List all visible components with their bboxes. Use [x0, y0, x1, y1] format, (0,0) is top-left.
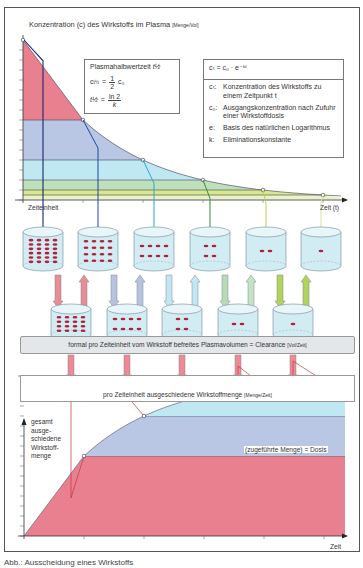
title-text: Konzentration (c) des Wirkstoffs im Plas…: [29, 20, 170, 29]
concentration-band: [23, 120, 143, 160]
drug-molecule: [65, 325, 70, 328]
plasma-cylinder: [190, 232, 230, 271]
filter-cylinder-top: [273, 304, 313, 314]
drug-molecule: [240, 323, 245, 326]
def-text: Eliminationskonstante: [223, 136, 291, 145]
drug-molecule: [45, 252, 50, 255]
drug-molecule: [53, 243, 58, 246]
excreted-unit: [Menge/Zeit]: [244, 392, 272, 398]
drug-molecule: [45, 248, 50, 251]
down-arrow-icon: [109, 275, 119, 308]
drug-molecule: [57, 325, 62, 328]
top-x-axis-label: Zeit (t): [320, 204, 339, 211]
concentration-band: [23, 190, 323, 195]
plasma-cylinder-top: [78, 227, 118, 237]
plasma-cylinder-top: [190, 227, 230, 237]
up-arrow-icon: [135, 275, 145, 308]
down-arrow-icon: [220, 275, 230, 308]
drug-molecule: [84, 253, 89, 256]
half-life-title: Plasmahalbwertzeit t½: [90, 63, 174, 72]
y-label-line: schiedene: [31, 435, 61, 444]
drug-molecule: [184, 318, 189, 321]
up-arrow-icon: [301, 275, 311, 308]
def-text: Ausgangskonzentration nach Zufuhr einer …: [223, 104, 338, 122]
frac-num: 1: [109, 75, 115, 83]
drug-molecule: [176, 328, 181, 331]
drug-molecule: [148, 255, 153, 258]
drug-molecule: [57, 329, 62, 332]
drug-molecule: [81, 329, 86, 332]
plasma-cylinder-top: [23, 227, 63, 237]
def-key: k:: [209, 136, 223, 145]
drug-molecule: [232, 323, 237, 326]
down-arrow-icon: [53, 275, 63, 308]
y-label-line: Wirkstoff-: [31, 444, 61, 453]
drug-molecule: [204, 245, 209, 248]
drug-molecule: [84, 259, 89, 262]
eq1-sub: t½: [94, 79, 100, 85]
drug-molecule: [37, 256, 42, 259]
drug-molecule: [65, 316, 70, 319]
drug-molecule: [37, 248, 42, 251]
drug-molecule: [73, 320, 78, 323]
drug-molecule: [37, 261, 42, 264]
drug-molecule: [319, 250, 324, 253]
drug-molecule: [73, 316, 78, 319]
filter-cylinder-top: [107, 304, 147, 314]
half-life-box: Plasmahalbwertzeit t½ ct½ = 1 2 c₀ t½ = …: [84, 59, 180, 114]
equals-sign: =: [101, 96, 105, 105]
clearance-band: formal pro Zeiteinheit vom Wirkstoff bef…: [20, 336, 355, 354]
ln2-over-k-fraction: ln 2 k: [108, 93, 121, 108]
def-key: c₀:: [209, 104, 223, 122]
filter-cylinder-top: [162, 304, 202, 314]
drug-molecule: [29, 261, 34, 264]
drug-molecule: [29, 252, 34, 255]
up-arrow-icon: [79, 275, 89, 308]
drug-molecule: [65, 320, 70, 323]
drug-molecule: [184, 328, 189, 331]
drug-molecule: [129, 318, 134, 321]
excreted-text: pro Zeiteinheit ausgeschiedene Wirkstoff…: [103, 391, 242, 398]
decay-formula: cₜ = c₀ · e⁻ᵏᵗ: [204, 60, 343, 80]
plasma-cylinder-top: [246, 227, 286, 237]
drug-molecule: [57, 320, 62, 323]
bottom-x-axis-label: Zeit: [330, 543, 341, 550]
half-life-equation-2: t½ = ln 2 k: [90, 93, 174, 108]
drug-molecule: [53, 248, 58, 251]
drug-molecule: [108, 240, 113, 243]
drug-molecule: [108, 246, 113, 249]
drug-molecule: [53, 239, 58, 242]
plasma-cylinder: [23, 232, 63, 271]
drug-molecule: [113, 318, 118, 321]
drug-molecule: [100, 253, 105, 256]
definition-item: cₜ:Konzentration des Wirkstoffs zu einem…: [209, 83, 338, 101]
drug-molecule: [92, 246, 97, 249]
drug-molecule: [45, 261, 50, 264]
drug-molecule: [260, 250, 265, 253]
drug-molecule: [29, 243, 34, 246]
excretion-band: [24, 456, 345, 536]
plasma-cylinder: [246, 232, 286, 271]
def-key: cₜ:: [209, 83, 223, 101]
drug-molecule: [268, 250, 273, 253]
y-label-line: menge: [31, 452, 61, 461]
drug-molecule: [37, 252, 42, 255]
formula-box: cₜ = c₀ · e⁻ᵏᵗ cₜ:Konzentration des Wirk…: [203, 59, 344, 158]
drug-molecule: [73, 325, 78, 328]
one-half-fraction: 1 2: [109, 75, 115, 90]
drug-molecule: [113, 328, 118, 331]
definition-item: e:Basis des natürlichen Logarithmus: [209, 124, 338, 133]
drug-molecule: [137, 328, 142, 331]
drug-molecule: [57, 316, 62, 319]
drug-molecule: [156, 245, 161, 248]
drug-molecule: [37, 243, 42, 246]
definition-item: k:Eliminationskonstante: [209, 136, 338, 145]
half-life-title-text: Plasmahalbwertzeit: [90, 63, 151, 70]
frac-den: k: [113, 101, 117, 108]
frac-num: ln 2: [108, 93, 121, 101]
drug-molecule: [121, 318, 126, 321]
formula-definitions: cₜ:Konzentration des Wirkstoffs zu einem…: [204, 80, 343, 151]
plasma-cylinder: [134, 232, 174, 271]
drug-molecule: [108, 259, 113, 262]
drug-molecule: [45, 243, 50, 246]
